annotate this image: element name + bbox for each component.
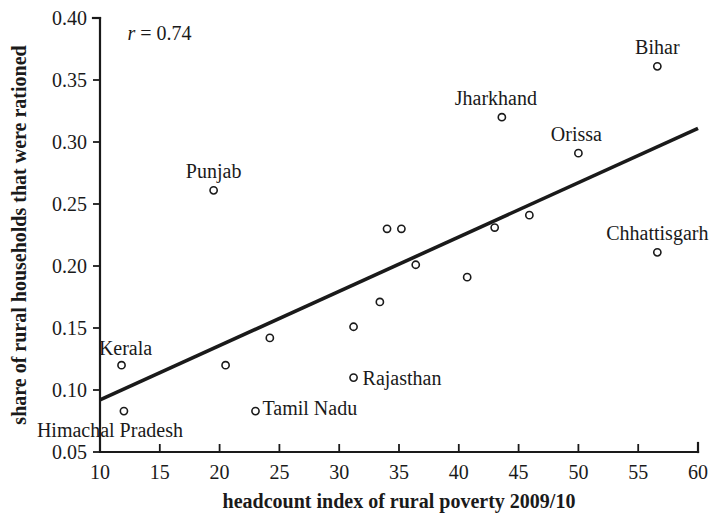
point-label: Tamil Nadu xyxy=(262,397,357,419)
chart-canvas: 0.050.100.150.200.250.300.350.4010152025… xyxy=(0,0,717,518)
correlation-value: 0.74 xyxy=(157,22,192,44)
x-tick-label: 30 xyxy=(329,461,349,483)
data-point xyxy=(210,187,217,194)
x-tick-label: 50 xyxy=(568,461,588,483)
data-point xyxy=(350,323,357,330)
point-label: Punjab xyxy=(186,160,242,183)
data-point xyxy=(654,63,661,70)
x-tick-label: 60 xyxy=(688,461,708,483)
x-axis-title: headcount index of rural poverty 2009/10 xyxy=(223,490,576,513)
data-point xyxy=(412,261,419,268)
point-label: Jharkhand xyxy=(455,87,537,109)
point-label: Bihar xyxy=(635,36,680,58)
scatter-plot-figure: 0.050.100.150.200.250.300.350.4010152025… xyxy=(0,0,717,518)
data-point xyxy=(575,150,582,157)
data-point xyxy=(376,298,383,305)
data-point xyxy=(222,362,229,369)
point-label: Orissa xyxy=(551,123,602,145)
y-tick-label: 0.10 xyxy=(52,379,87,401)
data-point xyxy=(266,334,273,341)
x-tick-label: 15 xyxy=(150,461,170,483)
data-point xyxy=(118,362,125,369)
x-tick-label: 10 xyxy=(90,461,110,483)
data-point xyxy=(654,249,661,256)
axis-titles-group: headcount index of rural poverty 2009/10… xyxy=(8,45,575,513)
y-tick-label: 0.40 xyxy=(52,7,87,29)
y-tick-label: 0.05 xyxy=(52,441,87,463)
correlation-equals: = xyxy=(135,22,156,44)
x-tick-label: 35 xyxy=(389,461,409,483)
correlation-symbol: r xyxy=(128,22,136,44)
y-tick-label: 0.30 xyxy=(52,131,87,153)
data-point xyxy=(498,114,505,121)
y-tick-label: 0.35 xyxy=(52,69,87,91)
data-point xyxy=(383,225,390,232)
data-points-group xyxy=(118,63,661,415)
point-label: Kerala xyxy=(99,337,152,359)
data-point xyxy=(464,274,471,281)
point-label: Rajasthan xyxy=(363,367,442,390)
axes-group: 0.050.100.150.200.250.300.350.4010152025… xyxy=(52,7,708,483)
data-point xyxy=(350,374,357,381)
data-point xyxy=(526,212,533,219)
y-tick-label: 0.25 xyxy=(52,193,87,215)
y-tick-label: 0.20 xyxy=(52,255,87,277)
point-label: Himachal Pradesh xyxy=(37,419,183,441)
data-point xyxy=(398,225,405,232)
x-tick-label: 55 xyxy=(628,461,648,483)
data-point xyxy=(252,407,259,414)
y-tick-label: 0.15 xyxy=(52,317,87,339)
annotations-group: r = 0.74 xyxy=(128,22,192,44)
data-point xyxy=(120,407,127,414)
point-labels-group: KeralaHimachal PradeshTamil NaduRajastha… xyxy=(37,36,709,441)
y-axis-title: share of rural households that were rati… xyxy=(8,45,30,424)
x-tick-label: 45 xyxy=(509,461,529,483)
x-tick-label: 25 xyxy=(269,461,289,483)
correlation-annotation: r = 0.74 xyxy=(128,22,192,44)
x-tick-label: 20 xyxy=(210,461,230,483)
point-label: Chhattisgarh xyxy=(606,222,708,245)
data-point xyxy=(491,224,498,231)
x-tick-label: 40 xyxy=(449,461,469,483)
